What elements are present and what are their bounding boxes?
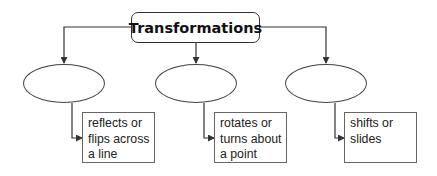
- definition-line: reflects or: [88, 116, 151, 132]
- arrow-to-box-1: [72, 103, 82, 138]
- definition-line: a line: [88, 147, 151, 163]
- arrow-to-ellipse-1: [64, 27, 131, 63]
- definition-box-translation: shifts or slides: [344, 112, 417, 163]
- definition-line: shifts or: [350, 116, 413, 132]
- ellipse-rotation: [155, 64, 237, 103]
- arrow-to-box-2: [204, 103, 214, 138]
- title-box: Transformations: [131, 12, 260, 43]
- title-text: Transformations: [129, 20, 262, 36]
- definition-box-rotation: rotates or turns about a point: [214, 112, 287, 163]
- definition-line: a point: [220, 147, 283, 163]
- definition-box-reflection: reflects or flips across a line: [82, 112, 155, 163]
- definition-line: rotates or: [220, 116, 283, 132]
- ellipse-translation: [285, 64, 367, 103]
- definition-line: flips across: [88, 132, 151, 148]
- ellipse-reflection: [23, 64, 105, 103]
- definition-line: slides: [350, 132, 413, 148]
- definition-line: turns about: [220, 132, 283, 148]
- arrow-to-box-3: [335, 103, 344, 138]
- arrow-to-ellipse-3: [260, 27, 326, 63]
